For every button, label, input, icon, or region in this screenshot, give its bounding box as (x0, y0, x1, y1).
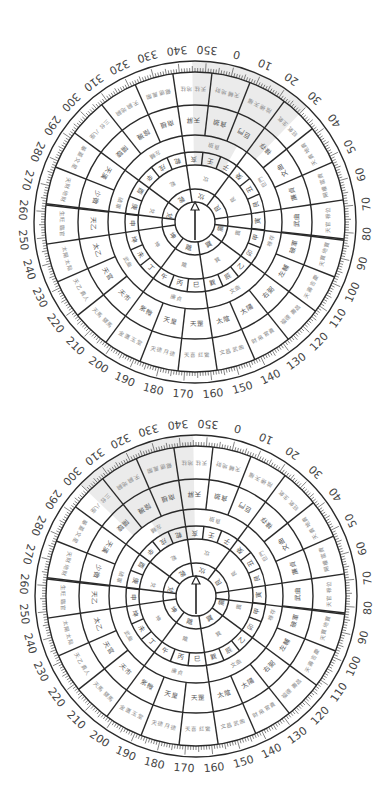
trigram-label: 坎 (198, 566, 207, 576)
star-ring-label: 右弼 (260, 284, 276, 300)
mountain-label: 乾 (173, 156, 182, 167)
degree-label: 10 (257, 430, 275, 448)
trigram-detail-label: 離 (180, 261, 188, 270)
mountain-label: 巳 (193, 281, 200, 289)
outer-ring-label: 天德 月德 (150, 718, 177, 732)
outer-ring-label: 福德 壽昌 (279, 302, 303, 326)
degree-label: 350 (197, 417, 219, 431)
mountain-label: 申 (129, 594, 138, 601)
star-ring-label: 陰璣 (135, 128, 152, 143)
star-label: 文曲 (229, 656, 243, 669)
degree-label: 270 (20, 543, 38, 567)
star-label: 巨門 (256, 175, 268, 189)
star-ring-label: 太陰 (215, 313, 231, 326)
star-ring-label: 天漢 (99, 165, 114, 182)
star-ring-label: 太陽 (239, 301, 256, 316)
trigram-label: 巽 (204, 613, 214, 623)
trigram-detail-label: 坤 (153, 614, 163, 623)
trigram-detail-label: 乾 (167, 179, 176, 189)
mountain-label: 酉 (135, 560, 145, 570)
degree-label: 340 (166, 43, 188, 58)
trigram-detail-label: 震 (236, 603, 244, 611)
outer-ring-label: 天喜 紅鸞 (184, 351, 210, 359)
star-ring-label: 天皇 (164, 688, 180, 700)
star-ring-label: 廉貞 (287, 560, 300, 576)
degree-label: 100 (342, 280, 362, 304)
degree-label: 50 (341, 137, 359, 155)
degree-label: 80 (361, 601, 375, 616)
star-ring-label: 天官 (102, 640, 117, 657)
mountain-label: 辰 (224, 645, 234, 655)
degree-label: 240 (21, 632, 39, 656)
outer-ring-label: 天貴 地貴 (299, 140, 319, 166)
trigram-label: 離 (185, 616, 194, 626)
mountain-label: 丙 (175, 279, 184, 288)
mountain-label: 艮 (252, 574, 262, 583)
degree-label: 30 (305, 88, 324, 107)
star-ring-label: 天罡 (191, 694, 205, 702)
star-label: 祿存 (266, 608, 276, 621)
outer-ring-label: 天財 地財 (59, 176, 73, 203)
degree-label: 260 (16, 199, 30, 221)
outer-ring-label: 三台 八座 (88, 118, 112, 142)
mountain-label: 坤 (129, 235, 140, 244)
outer-ring-label: 福德 壽昌 (280, 676, 304, 700)
star-ring-label: 天皇 (163, 314, 179, 326)
outer-ring-label: 天官 祿位 (325, 581, 333, 607)
mountain-label: 庚 (129, 202, 139, 211)
mountain-label: 甲 (253, 607, 262, 616)
star-ring-label: 貪狼 (213, 492, 229, 504)
star-ring-label: 天屏 (187, 490, 201, 498)
trigram-detail-label: 巽 (215, 630, 224, 639)
outer-ring-label: 天寶 地寶 (318, 615, 332, 642)
trigram-detail-label: 坎 (203, 548, 211, 557)
degree-label: 90 (355, 629, 371, 646)
degree-label: 230 (30, 285, 51, 310)
outer-ring-label: 旺氣 生氣 (276, 489, 299, 512)
outer-ring-label: 龍德 鳳閣 (145, 87, 172, 102)
mountain-label: 巳 (194, 655, 201, 663)
compass-needle-icon (191, 202, 199, 240)
degree-label: 10 (256, 56, 274, 74)
degree-label: 230 (31, 659, 52, 684)
star-label: 破軍 (115, 570, 126, 584)
degree-label: 40 (325, 111, 344, 130)
degree-label: 160 (203, 760, 225, 775)
degree-label: 150 (232, 753, 256, 771)
star-ring-label: 南極 (159, 118, 175, 131)
star-ring-label: 天乙 (90, 591, 98, 605)
outer-ring-label: 太陽 太陰 (60, 245, 75, 272)
star-label: 武曲 (123, 629, 136, 643)
mountain-label: 寅 (253, 217, 262, 224)
outer-ring-label: 天官 祿位 (324, 207, 332, 233)
compass-dial-top: 0102030405060708090100110120130140150160… (0, 27, 388, 417)
star-ring-label: 天屏 (186, 116, 200, 124)
star-label: 廉貞 (170, 666, 184, 677)
degree-label: 140 (258, 367, 283, 388)
degree-label: 180 (142, 381, 166, 399)
degree-label: 70 (359, 196, 373, 211)
outer-ring-label: 天嗣 地嗣 (113, 98, 139, 118)
outer-ring-label: 金匱 玉堂 (118, 329, 144, 348)
mountain-label: 丁 (146, 262, 157, 273)
trigram-detail-label: 坎 (202, 174, 210, 183)
star-label: 武曲 (122, 255, 135, 269)
mountain-label: 乙 (236, 635, 247, 646)
trigram-label: 巽 (203, 239, 213, 249)
degree-label: 340 (167, 417, 189, 432)
star-label: 左輔 (148, 149, 162, 162)
degree-label: 330 (137, 421, 161, 439)
outer-ring-label: 陽權 富貴 (315, 172, 330, 199)
trigram-detail-label: 艮 (230, 568, 239, 577)
degree-label: 0 (232, 47, 242, 61)
trigram-detail-label: 離 (181, 635, 189, 644)
outer-ring-label: 天寶 地寶 (317, 241, 331, 268)
outer-ring-label: 財帛 官貴 (251, 700, 277, 720)
mountain-label: 酉 (134, 186, 144, 196)
star-label: 貪狼 (208, 515, 222, 526)
trigram-label: 離 (184, 242, 193, 252)
outer-ring-label: 文昌 武曲 (219, 716, 246, 731)
star-ring-label: 武曲 (293, 587, 302, 601)
mountain-label: 亥 (190, 155, 197, 164)
star-ring-label: 破軍 (287, 239, 299, 255)
